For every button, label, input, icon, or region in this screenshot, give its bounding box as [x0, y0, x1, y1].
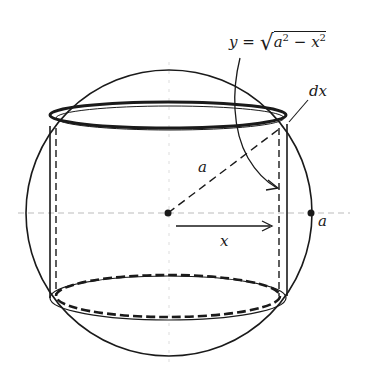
radius-line [168, 126, 283, 213]
sphere-edge-label: a [318, 214, 327, 229]
radius-label: a [198, 160, 207, 175]
formula-minus: − [294, 33, 307, 51]
sqrt-icon: √ [260, 30, 274, 55]
x-label: x [220, 234, 228, 249]
formula-y-equals-sqrt: y = √a2 − x2 [229, 30, 326, 55]
sphere-edge-point [308, 210, 315, 217]
center-point [165, 210, 172, 217]
formula-x-exp: 2 [320, 32, 326, 43]
cylinder-top-ellipse-inner [56, 106, 284, 130]
cylinder-in-sphere-diagram [0, 0, 368, 379]
dx-leader-line [289, 100, 308, 122]
formula-x: x [311, 33, 319, 51]
formula-radicand: a2 − x2 [274, 31, 326, 51]
formula-lhs: y [229, 33, 237, 51]
formula-a: a [274, 33, 283, 51]
formula-a-exp: 2 [283, 32, 289, 43]
formula-equals: = [242, 33, 255, 51]
dx-label: dx [309, 84, 327, 99]
